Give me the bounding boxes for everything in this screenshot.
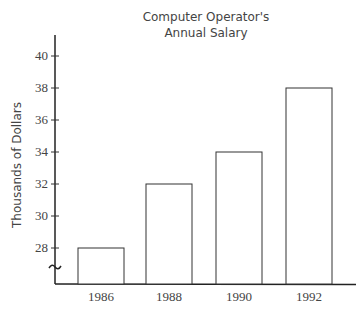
x-tick-label: 1986 bbox=[88, 289, 115, 304]
bar-1990 bbox=[216, 152, 262, 284]
bar-1988 bbox=[146, 184, 192, 284]
y-tick-label: 34 bbox=[35, 144, 49, 159]
y-tick-label: 28 bbox=[35, 240, 48, 255]
x-tick-label: 1988 bbox=[156, 289, 182, 304]
bars bbox=[78, 88, 332, 284]
bar-chart: Computer Operator's Annual Salary Thousa… bbox=[0, 0, 363, 309]
y-tick-label: 40 bbox=[35, 48, 48, 63]
y-tick-label: 30 bbox=[35, 208, 48, 223]
y-axis-label: Thousands of Dollars bbox=[10, 102, 24, 229]
bar-1992 bbox=[286, 88, 332, 284]
x-tick-label: 1992 bbox=[296, 289, 322, 304]
chart-title-line-1: Computer Operator's bbox=[143, 10, 270, 24]
x-tick-label: 1990 bbox=[226, 289, 252, 304]
bar-1986 bbox=[78, 248, 124, 284]
chart-title-line-2: Annual Salary bbox=[164, 26, 247, 40]
y-tick-label: 36 bbox=[35, 112, 49, 127]
x-ticks: 1986198819901992 bbox=[88, 289, 322, 304]
y-tick-label: 38 bbox=[35, 80, 48, 95]
y-tick-label: 32 bbox=[35, 176, 48, 191]
